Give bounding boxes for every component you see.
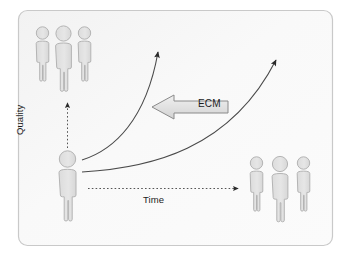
people-group-top-left: [36, 26, 91, 91]
time-axis-label: Time: [143, 194, 164, 205]
ecm-callout-label: ECM: [198, 98, 221, 109]
quality-axis-label: Quality: [14, 105, 25, 135]
diagram-canvas: Quality Time ECM: [0, 0, 349, 260]
diagram-graphics: [0, 0, 349, 260]
